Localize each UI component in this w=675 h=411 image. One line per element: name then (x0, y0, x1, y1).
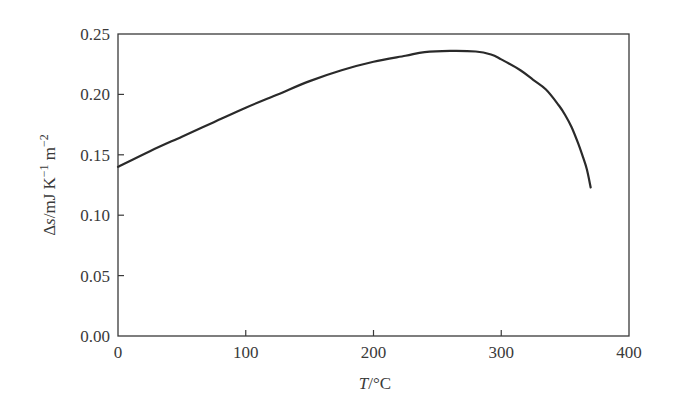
y-tick-label: 0.00 (80, 327, 110, 346)
y-axis-label-delta: Δ (40, 225, 59, 236)
y-tick-label: 0.15 (80, 146, 110, 165)
x-axis-label-unit: /°C (368, 374, 391, 393)
y-axis-label: Δs/mJ K−1 m−2 (37, 134, 59, 236)
plot-frame (118, 34, 629, 336)
y-tick-label: 0.25 (80, 25, 110, 44)
x-tick-label: 0 (114, 343, 123, 362)
x-axis-ticks: 0100200300400 (114, 330, 642, 362)
y-axis-label-sup-b: −2 (37, 134, 51, 147)
x-axis-label: T/°C (359, 374, 391, 393)
y-axis-label-sup-a: −1 (37, 164, 51, 177)
series-line (118, 51, 591, 188)
y-axis-label-unit-b: m (40, 147, 59, 164)
x-tick-label: 100 (233, 343, 259, 362)
plot-border (118, 34, 629, 336)
x-tick-label: 200 (361, 343, 387, 362)
y-axis-label-unit-a: /mJ K (40, 176, 59, 218)
x-tick-label: 400 (616, 343, 642, 362)
y-tick-label: 0.20 (80, 85, 110, 104)
chart-canvas: 0100200300400 0.000.050.100.150.200.25 T… (0, 0, 675, 411)
data-series (118, 51, 591, 188)
y-tick-label: 0.10 (80, 206, 110, 225)
x-tick-label: 300 (489, 343, 515, 362)
chart: 0100200300400 0.000.050.100.150.200.25 T… (0, 0, 675, 411)
y-tick-label: 0.05 (80, 267, 110, 286)
